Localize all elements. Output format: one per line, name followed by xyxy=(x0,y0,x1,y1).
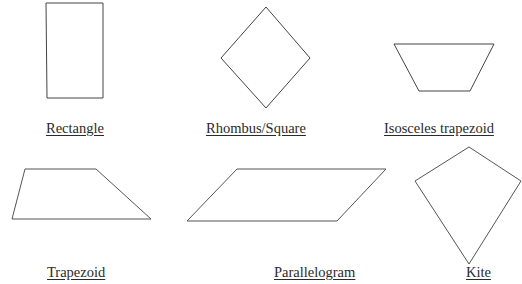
label-rectangle: Rectangle xyxy=(46,121,104,136)
label-isosceles-trapezoid: Isosceles trapezoid xyxy=(384,121,494,136)
label-kite: Kite xyxy=(466,265,491,280)
label-rhombus-square: Rhombus/Square xyxy=(206,121,306,136)
trapezoid-shape xyxy=(12,169,151,219)
parallelogram-shape xyxy=(187,169,386,221)
rectangle-shape xyxy=(46,3,103,98)
label-parallelogram: Parallelogram xyxy=(274,265,355,280)
shapes-canvas xyxy=(0,0,522,284)
kite-shape xyxy=(415,147,521,264)
rhombus-shape xyxy=(221,7,310,108)
label-trapezoid: Trapezoid xyxy=(47,265,105,280)
isosceles-trapezoid-shape xyxy=(394,44,494,91)
